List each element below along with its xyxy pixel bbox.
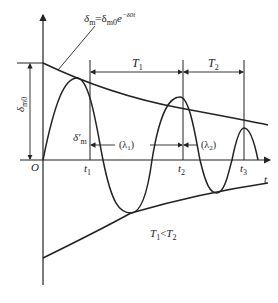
lambda1-label: (λ1) xyxy=(119,139,134,152)
second-amplitude-label: δ′m xyxy=(73,131,88,146)
envelope-equation: δm=δm0e−δ0t xyxy=(84,11,136,27)
period-t2-label: T2 xyxy=(208,56,219,72)
amplitude-label: δm0 xyxy=(14,97,29,112)
envelope-leader-line xyxy=(58,26,95,70)
t2-label: t2 xyxy=(178,162,185,177)
t3-label: t3 xyxy=(240,162,247,177)
period-condition: T1<T2 xyxy=(150,227,176,242)
origin-label: O xyxy=(31,161,39,173)
lower-envelope-curve xyxy=(43,183,268,258)
damped-oscillation-diagram: δm=δm0e−δ0t δm0 δ′m O t t1 t2 t3 T1 T2 (… xyxy=(0,0,278,303)
oscillation-curve xyxy=(43,78,258,213)
t1-label: t1 xyxy=(84,162,91,177)
lambda2-label: (λ2) xyxy=(201,139,216,152)
period-t1-label: T1 xyxy=(132,56,143,72)
